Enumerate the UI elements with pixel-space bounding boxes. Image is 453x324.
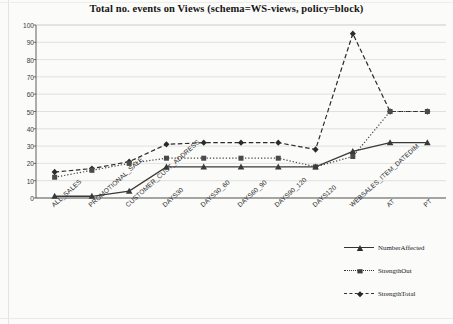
legend-item-strengthtotal[interactable]: StrengthTotal bbox=[344, 282, 450, 305]
legend-item-numberaffected[interactable]: NumberAffected bbox=[344, 236, 450, 259]
data-point-strengthout bbox=[164, 156, 169, 161]
data-point-strengthtotal bbox=[238, 139, 244, 145]
data-point-strengthtotal bbox=[275, 139, 281, 145]
data-point-strengthout bbox=[350, 154, 355, 159]
legend-item-strengthout[interactable]: StrengthOut bbox=[344, 259, 450, 282]
data-point-strengthout bbox=[89, 168, 94, 173]
legend-label-numberaffected: NumberAffected bbox=[378, 244, 425, 251]
legend-swatch-strengthout bbox=[344, 266, 374, 276]
data-point-strengthtotal bbox=[350, 30, 356, 36]
chart-figure: Total no. events on Views (schema=WS-vie… bbox=[0, 0, 453, 324]
data-point-strengthout bbox=[388, 109, 393, 114]
data-point-strengthout bbox=[425, 109, 430, 114]
data-point-strengthout bbox=[239, 156, 244, 161]
diamond-icon bbox=[356, 290, 364, 298]
data-point-strengthout bbox=[52, 175, 57, 180]
legend-swatch-strengthtotal bbox=[344, 289, 374, 299]
chart-legend: NumberAffected StrengthOut StrengthTotal bbox=[344, 236, 450, 305]
data-point-strengthtotal bbox=[313, 146, 319, 152]
data-point-numberaffected bbox=[126, 188, 133, 194]
data-point-strengthout bbox=[201, 156, 206, 161]
legend-label-strengthout: StrengthOut bbox=[378, 267, 412, 274]
data-point-strengthtotal bbox=[163, 141, 169, 147]
triangle-icon bbox=[356, 244, 364, 252]
data-point-strengthtotal bbox=[52, 169, 58, 175]
legend-swatch-numberaffected bbox=[344, 243, 374, 253]
square-icon bbox=[356, 267, 364, 275]
data-point-strengthout bbox=[276, 156, 281, 161]
series-strengthtotal bbox=[52, 30, 431, 175]
legend-label-strengthtotal: StrengthTotal bbox=[378, 290, 415, 297]
data-point-strengthtotal bbox=[201, 139, 207, 145]
